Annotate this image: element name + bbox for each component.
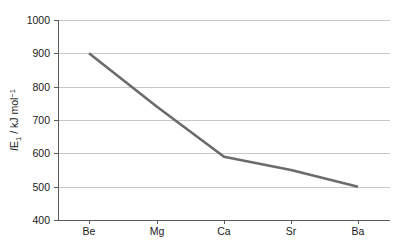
y-tick-label-1000: 1000 bbox=[27, 14, 51, 26]
ylabel-e: E bbox=[8, 141, 20, 148]
x-tick-label-mg: Mg bbox=[150, 225, 165, 237]
x-tick-label-ca: Ca bbox=[217, 225, 231, 237]
x-tick-label-be: Be bbox=[83, 225, 96, 237]
ylabel-units: / kJ mol bbox=[8, 98, 20, 137]
x-tick-label-ba: Ba bbox=[352, 225, 365, 237]
chart-container: 4005006007008009001000 BeMgCaSrBa IE1 / … bbox=[0, 0, 405, 252]
y-tick-label-700: 700 bbox=[32, 114, 50, 126]
y-tick-label-500: 500 bbox=[32, 181, 50, 193]
x-tick-label-sr: Sr bbox=[286, 225, 297, 237]
ylabel-superscript-minus-1: −1 bbox=[8, 89, 17, 98]
y-tick-label-800: 800 bbox=[32, 81, 50, 93]
y-tick-label-600: 600 bbox=[32, 147, 50, 159]
y-tick-label-900: 900 bbox=[32, 47, 50, 59]
ionisation-energy-line-chart: 4005006007008009001000 BeMgCaSrBa IE1 / … bbox=[0, 0, 405, 252]
chart-background bbox=[0, 0, 405, 252]
y-tick-label-400: 400 bbox=[32, 214, 50, 226]
